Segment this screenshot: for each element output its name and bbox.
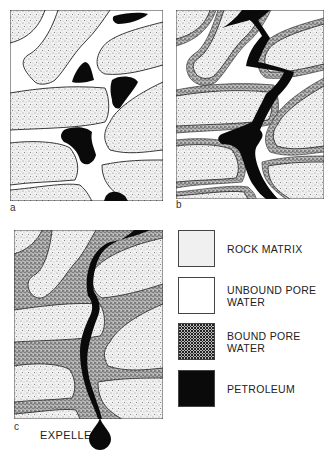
legend-item-unbound-pore-water: UNBOUND PORE WATER [178,277,328,317]
legend-label: UNBOUND PORE WATER [227,284,327,308]
panel-a-label: a [10,202,16,213]
unbound-pore-water-swatch [178,277,215,314]
legend-label: PETROLEUM [227,383,327,395]
legend-label: BOUND PORE WATER [227,330,327,354]
bound-pore-water-swatch [178,323,215,360]
rock-matrix-swatch [178,230,215,267]
legend-item-bound-pore-water: BOUND PORE WATER [178,323,328,363]
legend-item-rock-matrix: ROCK MATRIX [178,230,328,270]
petroleum-swatch [178,370,215,407]
panel-c-label: c [14,421,19,432]
legend-label: ROCK MATRIX [227,243,327,255]
petroleum-droplet-icon [89,417,111,450]
panel-b-label: b [176,199,182,210]
panel-a-diagram [10,10,163,201]
legend-item-petroleum: PETROLEUM [178,370,328,410]
panel-b-diagram [176,10,324,199]
panel-c-diagram [14,230,163,419]
